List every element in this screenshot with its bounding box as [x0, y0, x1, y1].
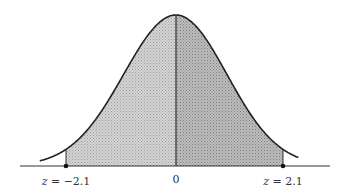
left-marker-dot — [64, 164, 69, 169]
right-marker-dot — [281, 164, 286, 169]
shaded-area-right — [176, 15, 283, 166]
shaded-area-left — [66, 15, 176, 166]
normal-curve-diagram: z = −2.1 0 z = 2.1 — [0, 0, 347, 195]
center-label: 0 — [173, 173, 180, 186]
left-z-label: z = −2.1 — [41, 175, 91, 188]
right-z-label: z = 2.1 — [262, 175, 303, 188]
